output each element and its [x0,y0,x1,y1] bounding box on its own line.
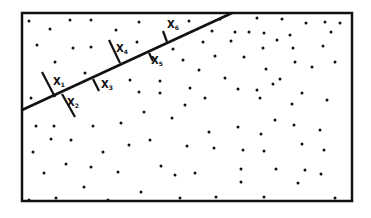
data-point [171,117,174,120]
data-point [174,174,177,177]
transect-label: X3 [101,79,113,91]
data-point [120,122,123,125]
data-point [301,92,304,95]
data-point [275,168,278,171]
data-point [330,31,333,34]
data-point [237,88,240,91]
data-point [297,182,300,185]
data-point [189,87,192,90]
data-point [70,139,73,142]
data-point [323,149,326,152]
data-point [160,165,163,168]
data-point [140,191,143,194]
data-point [208,131,211,134]
data-point [256,89,259,92]
transect-label: X4 [116,43,128,55]
data-point [65,163,68,166]
data-point [50,138,53,141]
transect-line [163,31,167,42]
data-point [256,17,259,20]
data-point [215,196,218,199]
transect-label: X2 [67,97,79,109]
data-point [260,133,263,136]
transect-label: X5 [151,55,163,67]
data-point [224,77,227,80]
data-point [69,19,72,22]
data-point [211,30,214,33]
data-point [240,181,243,184]
data-point [259,97,262,100]
data-point [263,150,266,153]
data-point [90,166,93,169]
data-point [293,124,296,127]
data-point [292,47,295,50]
data-point [194,172,197,175]
data-point [204,97,207,100]
data-point [279,78,282,81]
data-point [214,55,217,58]
data-point [334,61,337,64]
data-point [319,129,322,132]
data-point [265,68,268,71]
data-point [172,48,175,51]
data-point [28,20,31,23]
data-point [143,111,146,114]
transect-5: X5 [149,53,163,67]
data-point [230,40,233,43]
data-point [213,147,216,150]
data-point [117,171,120,174]
data-point [320,173,323,176]
data-point [304,169,307,172]
transect-2: X2 [62,94,79,117]
data-point [276,39,279,42]
data-point [90,46,93,49]
data-point [107,199,110,202]
data-point [305,22,308,25]
transect-label: X6 [167,19,179,31]
data-point [301,143,304,146]
transect-4: X4 [109,40,128,63]
data-point [115,29,118,32]
data-point [188,20,191,23]
data-point [237,126,240,129]
data-point [339,22,342,25]
data-point [149,139,152,142]
transect-1: X1 [42,72,65,97]
data-point [83,186,86,189]
data-point [326,99,329,102]
transect-3: X3 [93,79,113,91]
data-point [129,79,132,82]
data-point [138,91,141,94]
data-point [36,44,39,47]
data-point [55,197,58,200]
data-point [102,151,105,154]
data-point [334,197,337,200]
data-point [35,125,38,128]
data-point [182,59,185,62]
data-point [234,31,237,34]
data-point [263,32,266,35]
data-point [28,199,31,202]
data-point [30,97,33,100]
point-cloud [28,17,342,202]
data-point [248,31,251,34]
data-point [90,19,93,22]
transect-line [93,79,99,91]
data-point [159,80,162,83]
data-point [54,61,57,64]
data-point [92,125,95,128]
data-point [53,125,56,128]
data-point [289,34,292,37]
data-point [262,47,265,50]
data-point [272,83,275,86]
data-point [294,61,297,64]
data-point [243,56,246,59]
data-point [274,119,277,122]
data-point [179,197,182,200]
data-point [159,92,162,95]
data-point [138,21,141,24]
data-point [240,168,243,171]
data-point [322,45,325,48]
data-point [186,145,189,148]
data-point [32,151,35,154]
